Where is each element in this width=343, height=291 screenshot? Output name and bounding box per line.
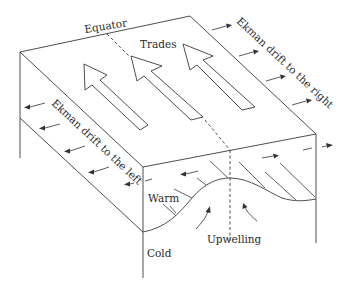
- warm-layer-hatch: [163, 161, 315, 215]
- upwelling-arrow-icon: [206, 206, 211, 213]
- trade-wind-arrow-icon: [183, 44, 255, 110]
- trade-wind-arrows: [84, 44, 255, 130]
- ekman-right-label: Ekman drift to the right: [235, 15, 337, 111]
- upwelling-arrows: [196, 203, 257, 229]
- thermocline-curve: [143, 178, 316, 232]
- warm-label: Warm: [148, 192, 179, 204]
- upwelling-label: Upwelling: [207, 233, 262, 245]
- upwelling-arrow-icon: [243, 203, 248, 209]
- equator-label: Equator: [83, 16, 128, 35]
- cold-label: Cold: [147, 247, 172, 259]
- trades-label: Trades: [140, 38, 177, 50]
- equator-line: [107, 34, 230, 242]
- equatorial-upwelling-diagram: Equator Trades Ekman drift to the right …: [0, 0, 343, 291]
